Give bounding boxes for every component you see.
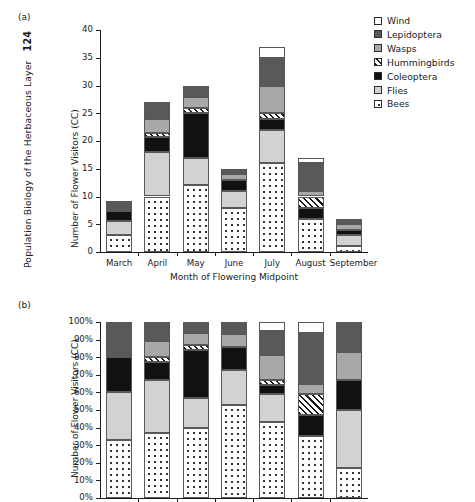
x-tick-label: September bbox=[330, 258, 368, 268]
y-tick-label: 30 bbox=[53, 80, 93, 90]
bar-segment-bees bbox=[221, 208, 247, 252]
y-tick-label: 5 bbox=[53, 219, 93, 229]
bar-segment-flies bbox=[106, 392, 132, 440]
bar-segment-wasps bbox=[144, 119, 170, 133]
bar-july bbox=[259, 322, 285, 498]
x-axis-line bbox=[100, 252, 368, 253]
y-tick-label: 0 bbox=[53, 246, 93, 256]
y-axis-line bbox=[100, 322, 101, 498]
y-axis-line bbox=[100, 30, 101, 252]
y-tick-label: 15 bbox=[53, 163, 93, 173]
y-tick-label: 90% bbox=[53, 334, 93, 344]
bar-segment-bees bbox=[221, 405, 247, 498]
x-tick bbox=[177, 498, 178, 502]
bar-segment-coleoptera bbox=[221, 180, 247, 191]
bar-segment-coleoptera bbox=[298, 208, 324, 219]
panel-a-tag: (a) bbox=[18, 12, 31, 22]
bar-segment-wasps bbox=[336, 352, 362, 380]
y-tick bbox=[96, 169, 100, 170]
bar-segment-hummingbirds bbox=[183, 345, 209, 350]
bar-segment-wind bbox=[298, 322, 324, 333]
y-tick bbox=[96, 428, 100, 429]
bar-segment-hummingbirds bbox=[298, 394, 324, 415]
bar-segment-hummingbirds bbox=[259, 380, 285, 385]
bar-segment-flies bbox=[106, 221, 132, 235]
legend-swatch-wind bbox=[374, 17, 382, 25]
y-tick-label: 10% bbox=[53, 475, 93, 485]
legend-swatch-bees bbox=[374, 100, 382, 108]
legend: WindLepidopteraWaspsHummingbirdsColeopte… bbox=[374, 14, 474, 114]
x-tick bbox=[215, 498, 216, 502]
x-tick bbox=[291, 252, 292, 256]
bar-may bbox=[183, 322, 209, 498]
panel-a-plot-area: 0510152025303540MarchAprilMayJuneJulyAug… bbox=[100, 30, 368, 252]
bar-segment-lepidoptera bbox=[221, 169, 247, 175]
bar-segment-wasps bbox=[183, 333, 209, 345]
bar-segment-coleoptera bbox=[183, 350, 209, 398]
bar-segment-flies bbox=[144, 152, 170, 196]
bar-segment-coleoptera bbox=[336, 230, 362, 236]
y-tick-label: 70% bbox=[53, 369, 93, 379]
bar-september bbox=[336, 322, 362, 498]
bar-segment-wasps bbox=[336, 224, 362, 230]
y-tick bbox=[96, 392, 100, 393]
bar-segment-lepidoptera bbox=[259, 331, 285, 356]
bar-segment-lepidoptera bbox=[106, 322, 132, 357]
y-tick-label: 50% bbox=[53, 404, 93, 414]
bar-april bbox=[144, 30, 170, 252]
bar-segment-coleoptera bbox=[183, 113, 209, 157]
bar-segment-coleoptera bbox=[298, 415, 324, 436]
legend-label: Lepidoptera bbox=[387, 28, 442, 42]
y-tick-label: 35 bbox=[53, 52, 93, 62]
bar-segment-wind bbox=[259, 322, 285, 331]
x-tick bbox=[253, 252, 254, 256]
x-tick-label: July bbox=[253, 258, 291, 268]
legend-label: Coleoptera bbox=[387, 70, 437, 84]
bar-segment-lepidoptera bbox=[183, 86, 209, 97]
legend-swatch-wasps bbox=[374, 44, 382, 52]
bar-segment-hummingbirds bbox=[144, 357, 170, 362]
bar-segment-coleoptera bbox=[106, 211, 132, 221]
bar-june bbox=[221, 322, 247, 498]
bar-segment-bees bbox=[336, 468, 362, 498]
bar-segment-lepidoptera bbox=[221, 322, 247, 334]
bar-segment-coleoptera bbox=[336, 380, 362, 410]
bar-may bbox=[183, 30, 209, 252]
bar-segment-wasps bbox=[221, 174, 247, 180]
y-tick bbox=[96, 141, 100, 142]
y-tick bbox=[96, 86, 100, 87]
bar-segment-wasps bbox=[298, 384, 324, 395]
y-tick bbox=[96, 498, 100, 499]
bar-segment-coleoptera bbox=[106, 357, 132, 392]
y-tick bbox=[96, 252, 100, 253]
bar-segment-lepidoptera bbox=[298, 333, 324, 384]
legend-swatch-lepidoptera bbox=[374, 30, 382, 38]
x-tick bbox=[177, 252, 178, 256]
y-tick-label: 20% bbox=[53, 457, 93, 467]
bar-segment-flies bbox=[144, 380, 170, 433]
bar-segment-flies bbox=[259, 130, 285, 163]
bar-segment-flies bbox=[183, 398, 209, 428]
x-tick bbox=[330, 252, 331, 256]
legend-swatch-hummingbirds bbox=[374, 58, 382, 66]
y-tick bbox=[96, 113, 100, 114]
y-tick bbox=[96, 480, 100, 481]
bar-segment-wasps bbox=[298, 191, 324, 197]
bar-segment-bees bbox=[183, 428, 209, 498]
y-tick-label: 25 bbox=[53, 108, 93, 118]
bar-segment-hummingbirds bbox=[259, 113, 285, 119]
panel-b-tag: (b) bbox=[18, 300, 31, 310]
bar-segment-lepidoptera bbox=[298, 163, 324, 191]
bar-segment-coleoptera bbox=[259, 385, 285, 394]
legend-label: Wind bbox=[387, 14, 410, 28]
y-tick bbox=[96, 30, 100, 31]
bar-segment-flies bbox=[336, 410, 362, 468]
y-tick bbox=[96, 357, 100, 358]
x-tick-label: June bbox=[215, 258, 253, 268]
legend-label: Bees bbox=[387, 97, 409, 111]
x-tick-label: March bbox=[100, 258, 138, 268]
running-head: Population Biology of the Herbaceous Lay… bbox=[0, 0, 34, 478]
y-tick bbox=[96, 463, 100, 464]
y-tick-label: 30% bbox=[53, 440, 93, 450]
y-tick bbox=[96, 224, 100, 225]
